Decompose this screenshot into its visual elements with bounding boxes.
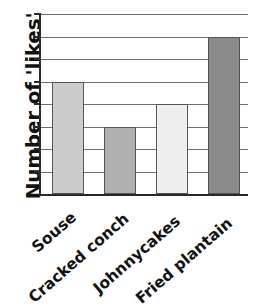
bar-cracked-conch	[104, 127, 136, 195]
y-axis-tick	[34, 148, 40, 150]
bar-johnnycakes	[156, 104, 188, 194]
bar-fried-plantain	[208, 37, 240, 195]
x-axis-tick-labels: SouseCracked conchJohnnycakesFried plant…	[0, 196, 258, 304]
y-axis-tick	[34, 81, 40, 83]
bars-layer	[40, 14, 248, 194]
y-axis-tick	[34, 103, 40, 105]
bar-chart-figure: Number of 'likes' SouseCracked conchJohn…	[0, 0, 258, 304]
x-tick-label-cracked-conch: Cracked conch	[25, 210, 132, 304]
plot-area	[40, 14, 248, 194]
bar-souse	[52, 82, 84, 195]
y-axis-tick	[34, 58, 40, 60]
y-axis-tick	[34, 36, 40, 38]
y-axis-tick	[34, 13, 40, 15]
y-axis-tick	[34, 171, 40, 173]
y-axis-tick	[34, 126, 40, 128]
